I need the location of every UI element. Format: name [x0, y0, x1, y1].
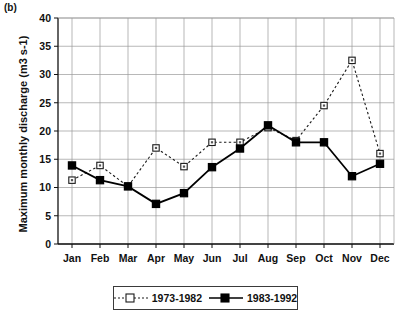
- chart-legend: 1973-1982 1983-1992: [113, 286, 298, 310]
- y-tick-label: 0: [45, 238, 51, 250]
- y-tick-label: 35: [39, 40, 51, 52]
- y-tick-label: 25: [39, 97, 51, 109]
- data-point-1983-1992-Dec: [376, 160, 383, 167]
- data-point-core: [183, 166, 185, 168]
- x-tick-label: Apr: [147, 252, 165, 264]
- y-tick-label: 5: [45, 210, 51, 222]
- legend-symbol-dotted-open-square: [114, 292, 148, 304]
- data-point-1983-1992-Nov: [348, 173, 355, 180]
- data-point-1983-1992-Feb: [96, 177, 103, 184]
- line-chart-plot: 0510152025303540JanFebMarAprMayJunJulAug…: [0, 0, 403, 324]
- data-point-1983-1992-May: [180, 190, 187, 197]
- x-tick-label: Mar: [119, 252, 138, 264]
- data-point-core: [211, 141, 213, 143]
- x-tick-label: Jul: [232, 252, 247, 264]
- x-tick-label: Sep: [286, 252, 305, 264]
- x-tick-label: May: [174, 252, 195, 264]
- figure-panel-b: (b) Maximum monthly discharge (m3 s-1) 0…: [0, 0, 403, 324]
- legend-label: 1973-1982: [152, 292, 202, 304]
- x-tick-label: Jun: [203, 252, 222, 264]
- y-tick-label: 15: [39, 153, 51, 165]
- data-point-1983-1992-Aug: [264, 122, 271, 129]
- series-line-1983-1992: [72, 125, 380, 204]
- y-tick-label: 30: [39, 68, 51, 80]
- data-point-core: [323, 104, 325, 106]
- data-point-core: [239, 141, 241, 143]
- data-point-1983-1992-Apr: [152, 200, 159, 207]
- x-tick-label: Jan: [63, 252, 81, 264]
- x-tick-label: Dec: [370, 252, 389, 264]
- y-tick-label: 40: [39, 12, 51, 24]
- x-tick-label: Nov: [342, 252, 362, 264]
- data-point-1983-1992-Oct: [320, 139, 327, 146]
- data-point-core: [71, 179, 73, 181]
- data-point-1983-1992-Jan: [68, 162, 75, 169]
- legend-label: 1983-1992: [247, 292, 297, 304]
- legend-symbol-solid-filled-square: [209, 292, 243, 304]
- legend-item-1983-1992: 1983-1992: [209, 292, 297, 304]
- data-point-core: [379, 153, 381, 155]
- x-tick-label: Oct: [315, 252, 333, 264]
- data-point-1983-1992-Jun: [208, 164, 215, 171]
- data-point-1983-1992-Jul: [236, 145, 243, 152]
- data-point-core: [351, 59, 353, 61]
- data-point-1983-1992-Sep: [292, 139, 299, 146]
- legend-item-1973-1982: 1973-1982: [114, 292, 202, 304]
- data-point-1983-1992-Mar: [124, 183, 131, 190]
- x-tick-label: Aug: [258, 252, 278, 264]
- data-point-core: [99, 164, 101, 166]
- data-point-core: [155, 147, 157, 149]
- x-tick-label: Feb: [91, 252, 110, 264]
- y-tick-label: 10: [39, 181, 51, 193]
- y-tick-label: 20: [39, 125, 51, 137]
- series-line-1973-1982: [72, 60, 380, 186]
